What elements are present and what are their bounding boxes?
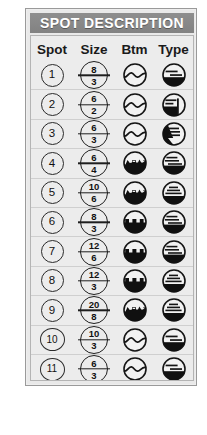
column-header-btm: Btm xyxy=(115,42,154,57)
type-left-dark-wedge-icon xyxy=(162,122,186,146)
castle-filled-bottom-icon xyxy=(123,269,147,293)
size-fraction: 63 xyxy=(80,355,108,381)
cell-btm xyxy=(115,120,154,148)
table-row[interactable]: 7126 xyxy=(31,236,193,265)
panel-title-bar: SPOT DESCRIPTION xyxy=(30,13,194,33)
size-denominator: 3 xyxy=(91,135,96,144)
size-fraction: 63 xyxy=(80,120,108,148)
cell-size: 63 xyxy=(73,120,115,148)
cell-size: 63 xyxy=(73,355,115,381)
fraction-bar xyxy=(78,74,110,75)
cell-spot: 11 xyxy=(31,355,73,381)
wavy-open-bottom-icon xyxy=(123,357,147,381)
spot-number-badge: 10 xyxy=(40,328,65,351)
cell-type xyxy=(154,120,193,148)
cell-size: 64 xyxy=(73,149,115,177)
size-numerator: 12 xyxy=(89,241,100,250)
wavy-open-bottom-icon xyxy=(123,63,147,87)
cell-size: 62 xyxy=(73,90,115,118)
cell-btm xyxy=(115,179,154,207)
spot-number-badge: 8 xyxy=(41,269,64,292)
table-row[interactable]: 8123 xyxy=(31,266,193,295)
size-fraction: 123 xyxy=(80,267,108,295)
size-numerator: 8 xyxy=(91,212,96,221)
table-row[interactable]: 262 xyxy=(31,89,193,118)
table-row[interactable]: 683 xyxy=(31,207,193,236)
size-denominator: 3 xyxy=(91,282,96,291)
type-vertical-edge-icon xyxy=(162,93,186,117)
cell-btm xyxy=(115,355,154,381)
spot-number-badge: 9 xyxy=(41,299,64,322)
spot-number-badge: 5 xyxy=(41,181,64,204)
type-halffill-stacked-icon xyxy=(162,181,186,205)
type-halffill-threelines-icon xyxy=(162,240,186,264)
size-numerator: 20 xyxy=(89,300,100,309)
cell-btm xyxy=(115,267,154,295)
spot-number-badge: 11 xyxy=(40,358,65,381)
cell-size: 106 xyxy=(73,179,115,207)
table-row[interactable]: 363 xyxy=(31,119,193,148)
castle-filled-bottom-icon xyxy=(123,210,147,234)
fraction-bar xyxy=(78,310,110,311)
column-header-size: Size xyxy=(73,42,115,57)
spot-number-badge: 1 xyxy=(41,64,64,87)
cell-btm xyxy=(115,326,154,354)
size-denominator: 3 xyxy=(91,341,96,350)
cell-size: 83 xyxy=(73,61,115,89)
cell-btm xyxy=(115,90,154,118)
table-row[interactable]: 464 xyxy=(31,148,193,177)
size-fraction: 64 xyxy=(80,149,108,177)
size-denominator: 6 xyxy=(91,194,96,203)
size-fraction: 103 xyxy=(80,326,108,354)
size-numerator: 12 xyxy=(89,270,100,279)
cell-btm xyxy=(115,208,154,236)
table-row[interactable]: 1163 xyxy=(31,354,193,381)
type-halffill-twolines-icon xyxy=(162,357,186,381)
cell-btm xyxy=(115,149,154,177)
size-denominator: 3 xyxy=(91,77,96,86)
cell-spot: 8 xyxy=(31,267,73,295)
cell-type xyxy=(154,149,193,177)
spot-number-badge: 2 xyxy=(41,93,64,116)
fraction-bar xyxy=(78,221,110,222)
cell-type xyxy=(154,326,193,354)
size-numerator: 10 xyxy=(89,329,100,338)
table-body: 1832623634645106683712681239208101031163 xyxy=(31,61,193,381)
cell-btm xyxy=(115,61,154,89)
cell-spot: 1 xyxy=(31,61,73,89)
size-denominator: 3 xyxy=(91,224,96,233)
size-numerator: 6 xyxy=(91,359,96,368)
cell-spot: 9 xyxy=(31,296,73,324)
table-row[interactable]: 9208 xyxy=(31,295,193,324)
cell-spot: 5 xyxy=(31,179,73,207)
cell-spot: 4 xyxy=(31,149,73,177)
cell-spot: 10 xyxy=(31,326,73,354)
spot-description-panel: SPOT DESCRIPTION Spot Size Btm Type 1832… xyxy=(25,8,197,386)
fraction-bar xyxy=(78,251,110,252)
fraction-bar xyxy=(78,104,110,105)
size-fraction: 83 xyxy=(80,208,108,236)
table-row[interactable]: 10103 xyxy=(31,325,193,354)
cell-spot: 3 xyxy=(31,120,73,148)
cell-spot: 7 xyxy=(31,237,73,265)
fraction-bar xyxy=(78,368,110,369)
cell-btm xyxy=(115,237,154,265)
cell-type xyxy=(154,90,193,118)
table-row[interactable]: 183 xyxy=(31,61,193,89)
size-numerator: 6 xyxy=(91,153,96,162)
spot-number-badge: 4 xyxy=(41,152,64,175)
size-fraction: 208 xyxy=(80,296,108,324)
size-fraction: 62 xyxy=(80,91,108,119)
cell-type xyxy=(154,179,193,207)
cell-btm xyxy=(115,296,154,324)
fraction-bar xyxy=(78,133,110,134)
size-numerator: 10 xyxy=(89,182,100,191)
cell-size: 103 xyxy=(73,326,115,354)
type-halffill-twolines-icon xyxy=(162,63,186,87)
type-halffill-twolines-icon xyxy=(162,328,186,352)
table-row[interactable]: 5106 xyxy=(31,178,193,207)
size-denominator: 4 xyxy=(91,165,96,174)
size-denominator: 2 xyxy=(91,106,96,115)
cell-spot: 2 xyxy=(31,90,73,118)
type-halffill-threelines-icon xyxy=(162,151,186,175)
